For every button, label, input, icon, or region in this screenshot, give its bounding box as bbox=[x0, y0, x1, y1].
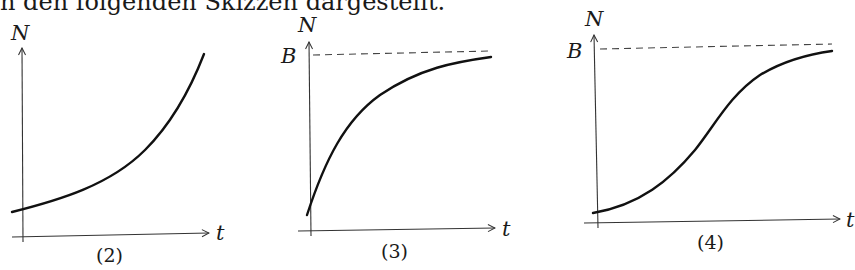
x-axis bbox=[584, 219, 840, 223]
graph-3: N B t (3) bbox=[280, 13, 511, 262]
y-axis bbox=[594, 35, 598, 228]
asymptote-label: B bbox=[566, 39, 582, 63]
exponential-curve bbox=[12, 54, 204, 212]
x-axis-label: t bbox=[846, 208, 855, 232]
graph-4: N B t (4) bbox=[566, 7, 855, 253]
graph-2: N t (2) bbox=[10, 21, 225, 266]
x-axis bbox=[12, 233, 209, 237]
x-axis-label: t bbox=[502, 217, 511, 241]
graph-caption: (2) bbox=[96, 244, 123, 266]
y-axis-label: N bbox=[297, 13, 317, 37]
asymptote-line bbox=[600, 44, 832, 49]
y-axis-label: N bbox=[584, 7, 604, 31]
asymptote-label: B bbox=[280, 44, 296, 68]
x-axis-label: t bbox=[216, 221, 225, 245]
figure-canvas: N t (2) N B t (3) N B t (4) bbox=[0, 0, 855, 270]
x-axis bbox=[298, 228, 495, 231]
logistic-curve bbox=[593, 51, 832, 213]
saturating-curve bbox=[307, 57, 491, 215]
asymptote-line bbox=[313, 51, 491, 55]
graph-caption: (3) bbox=[381, 240, 408, 262]
graph-caption: (4) bbox=[697, 231, 724, 253]
y-axis bbox=[22, 48, 23, 242]
y-axis-label: N bbox=[10, 21, 30, 45]
